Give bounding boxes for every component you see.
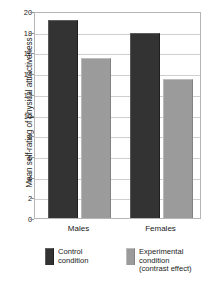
legend-swatch-control	[45, 248, 54, 265]
bar-males-control	[48, 20, 78, 218]
legend-label-experimental-line-3: (contrast effect)	[139, 265, 192, 274]
y-axis-tick-label: 6	[8, 152, 32, 161]
x-axis-tick-label-females: Females	[145, 224, 176, 233]
x-axis-tick-label-males: Males	[68, 224, 89, 233]
y-axis-tick-label: 14	[8, 70, 32, 79]
plot-area	[34, 12, 201, 219]
bar-females-control	[130, 33, 160, 218]
bar-males-experimental	[81, 58, 111, 218]
y-axis-tick-label: 4	[8, 173, 32, 182]
legend-label-control: Control condition	[58, 248, 88, 265]
y-axis-tick-mark	[30, 219, 34, 220]
y-axis-tick-label: 16	[8, 49, 32, 58]
y-axis-tick-label: 20	[8, 8, 32, 17]
legend: Control condition Experimental condition…	[0, 246, 211, 294]
y-axis-tick-label: 12	[8, 90, 32, 99]
y-axis-tick-label: 18	[8, 28, 32, 37]
bar-chart-figure: Mean self-rating of physical attractiven…	[0, 0, 211, 294]
y-axis-tick-label: 8	[8, 132, 32, 141]
y-axis-tick-label: 0	[8, 215, 32, 224]
y-axis-tick-label: 10	[8, 111, 32, 120]
legend-label-control-line-2: condition	[58, 257, 88, 266]
legend-item-experimental: Experimental condition (contrast effect)	[126, 248, 192, 274]
legend-swatch-experimental	[126, 248, 135, 265]
legend-label-experimental: Experimental condition (contrast effect)	[139, 248, 192, 274]
legend-item-control: Control condition	[45, 248, 88, 265]
y-axis-tick-label: 2	[8, 194, 32, 203]
bar-females-experimental	[163, 79, 193, 218]
